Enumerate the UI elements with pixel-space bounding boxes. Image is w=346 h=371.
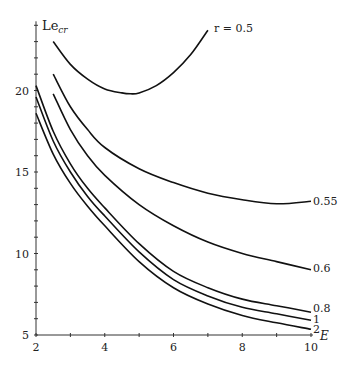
y-tick-label: 15: [15, 166, 29, 179]
series-label-r055: 0.55: [313, 195, 338, 208]
x-tick-label: 2: [33, 341, 40, 354]
curve-0-6: [53, 94, 311, 270]
x-tick-label: 10: [304, 341, 318, 354]
curve-0-8: [36, 86, 311, 313]
x-axis-label: E: [319, 329, 329, 343]
curve-r-0-5: [53, 30, 208, 94]
series-label-r2: 2: [313, 323, 320, 336]
x-tick-label: 8: [239, 341, 246, 354]
y-axis-label: Lecr: [42, 18, 68, 35]
x-tick-label: 4: [101, 341, 108, 354]
curve-0-55: [53, 74, 311, 204]
chart: 2468105101520 Lecr E r = 0.5 0.55 0.6 0.…: [0, 0, 346, 371]
y-tick-label: 10: [15, 248, 29, 261]
y-tick-label: 5: [22, 329, 29, 342]
x-tick-label: 6: [170, 341, 177, 354]
series-label-r06: 0.6: [313, 262, 331, 275]
curve-2: [36, 113, 311, 329]
axes: 2468105101520: [15, 21, 318, 354]
curves: [36, 30, 311, 329]
series-label-r05: r = 0.5: [214, 22, 253, 35]
y-tick-label: 20: [15, 85, 29, 98]
